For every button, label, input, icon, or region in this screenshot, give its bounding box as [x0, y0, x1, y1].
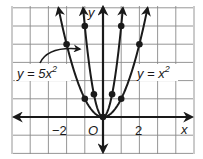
svg-text:y = x2: y = x2: [136, 64, 170, 81]
label-5x2: y = 5x2: [15, 64, 71, 81]
parabola-graph: y x O −2 2 y = 5x2 y = x2: [0, 0, 203, 159]
origin-label: O: [88, 123, 98, 138]
x-axis-label: x: [180, 122, 188, 137]
y-axis-label: y: [87, 5, 96, 20]
x-tick-2: 2: [135, 123, 142, 138]
label-pointer-arrow: [40, 49, 80, 63]
label-x2: y = x2: [136, 64, 178, 81]
x-tick-neg2: −2: [52, 123, 67, 138]
svg-text:y = 5x2: y = 5x2: [16, 64, 57, 81]
